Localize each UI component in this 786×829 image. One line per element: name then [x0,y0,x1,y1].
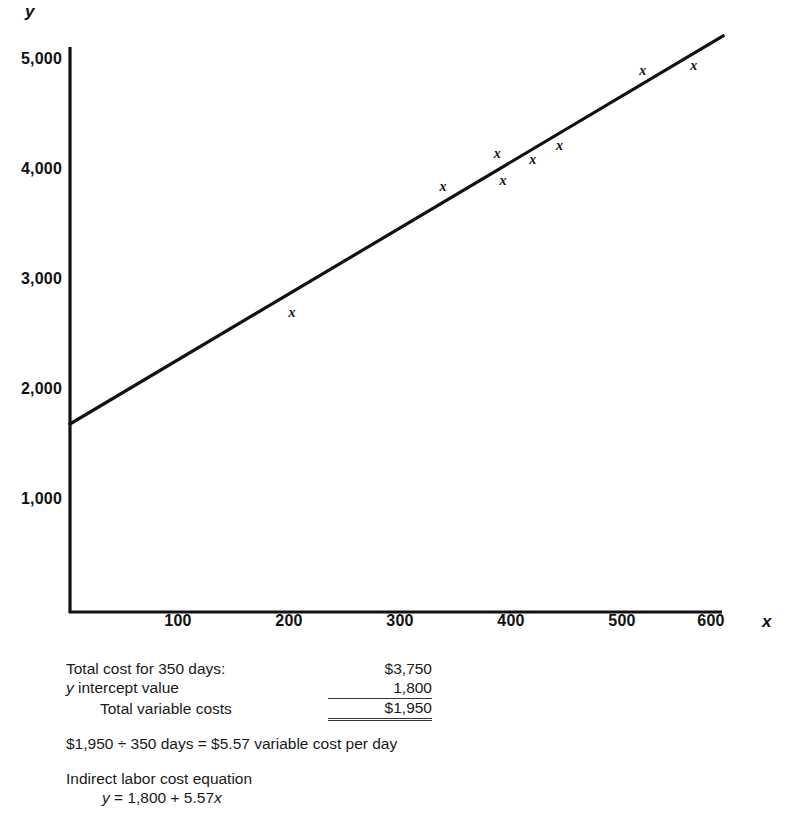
row-amount-total: $1,950 [328,699,432,720]
regression-trend-line [70,36,723,424]
data-point-marker: x [529,153,536,167]
table-row: Total variable costs $1,950 [66,699,432,720]
row-label: Total cost for 350 days: [66,660,328,679]
cost-equation: y = 1,800 + 5.57x [66,789,766,807]
row-label: y intercept value [66,679,328,699]
row-amount: 1,800 [328,679,432,699]
data-point-marker: x [690,59,697,73]
table-row: Total cost for 350 days: $3,750 [66,660,432,679]
table-row: y intercept value 1,800 [66,679,432,699]
row-label: Total variable costs [66,699,328,720]
data-point-marker: x [639,64,646,78]
variable-cost-per-day-line: $1,950 ÷ 350 days = $5.57 variable cost … [66,734,766,754]
calculation-block: Total cost for 350 days: $3,750 y interc… [66,660,766,807]
data-point-marker: x [499,174,506,188]
scatter-chart-figure: y x 5,000 4,000 3,000 2,000 1,000 100 20… [0,0,786,650]
equation-heading: Indirect labor cost equation [66,769,766,789]
data-point-marker: x [289,306,296,320]
data-point-marker: x [556,139,563,153]
data-point-marker: x [494,147,501,161]
plot-canvas [0,0,786,650]
data-point-marker: x [439,180,446,194]
row-amount: $3,750 [328,660,432,679]
cost-summary-table: Total cost for 350 days: $3,750 y interc… [66,660,432,721]
